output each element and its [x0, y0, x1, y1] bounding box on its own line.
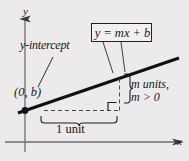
y-intercept-leader-line — [38, 57, 53, 87]
y-intercept-label: y-intercept — [20, 39, 69, 51]
right-angle-marker — [108, 103, 117, 111]
y-intercept-point-label: (0, b) — [14, 86, 41, 99]
slope-intercept-figure: y x y-intercept (0, b) 1 unit m units, m… — [0, 0, 189, 161]
rise-label-condition: m > 0 — [131, 91, 160, 103]
equation-text: y = mx + b — [92, 24, 153, 43]
equation-leader-line-right — [121, 42, 125, 72]
run-label: 1 unit — [56, 123, 85, 136]
equation-leader-line-left — [103, 42, 113, 73]
equation-callout-box: y = mx + b — [91, 23, 152, 42]
axis-label-y: y — [23, 6, 28, 17]
y-intercept-point — [22, 107, 29, 114]
rise-label-units: m units, — [131, 78, 169, 90]
axis-label-x: x — [177, 136, 182, 147]
